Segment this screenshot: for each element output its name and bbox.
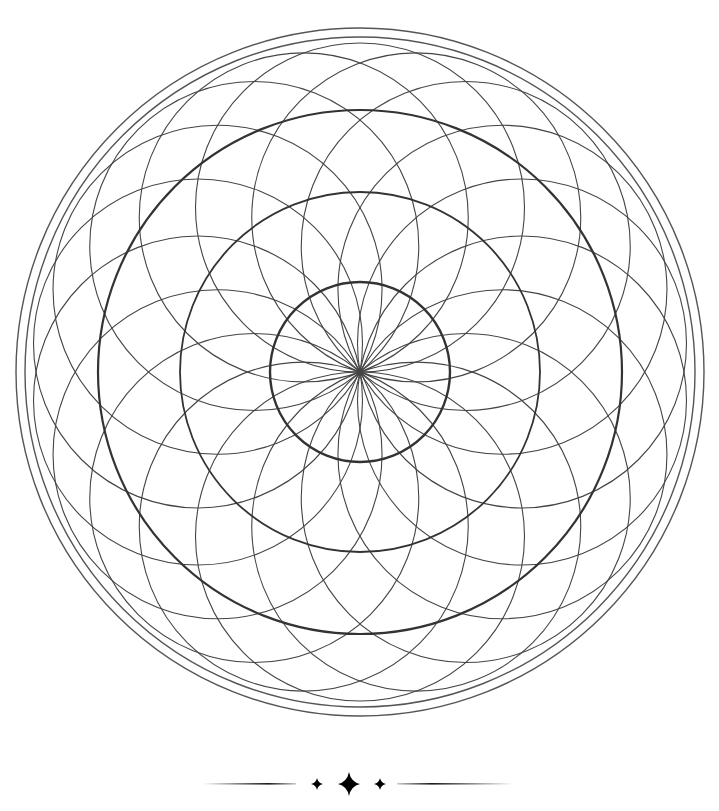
mandala-drawing <box>0 0 719 811</box>
petal-circles <box>34 43 687 701</box>
